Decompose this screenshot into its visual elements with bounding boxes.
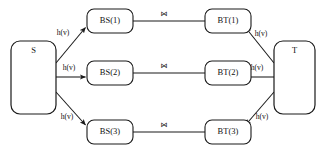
bs-node-2[interactable]: BS(2): [87, 61, 133, 85]
source-node[interactable]: S: [11, 41, 56, 114]
bs-node-3-label: BS(3): [100, 126, 120, 136]
bt-node-1[interactable]: BT(1): [205, 9, 251, 33]
bt-node-3[interactable]: BT(3): [205, 120, 251, 144]
target-node-label: T: [292, 45, 298, 55]
diagram-svg: S T BS(1) BS(2) BS(3) BT(1) BT(2): [0, 0, 321, 154]
bs-node-2-label: BS(2): [100, 67, 120, 77]
join-symbol-icon-1: ⋈: [161, 10, 168, 18]
edge-label-target-1: h(v): [255, 29, 268, 38]
join-symbol-icon-2: ⋈: [161, 62, 168, 70]
edge-group-source: [56, 28, 86, 126]
bs-node-1[interactable]: BS(1): [87, 9, 133, 33]
bt-node-2-label: BT(2): [218, 67, 239, 77]
diagram-canvas: S T BS(1) BS(2) BS(3) BT(1) BT(2): [0, 0, 321, 154]
target-node[interactable]: T: [274, 41, 315, 114]
bt-node-1-label: BT(1): [218, 15, 239, 25]
edge-label-source-2: h(v): [63, 63, 76, 72]
edge-label-target-3: h(v): [256, 112, 269, 121]
join-symbol-icon-3: ⋈: [161, 121, 168, 129]
edge-label-target-2: h(v): [251, 63, 264, 72]
edge-label-source-3: h(v): [61, 112, 74, 121]
edge-label-source-1: h(v): [57, 28, 70, 37]
source-node-label: S: [31, 45, 36, 55]
bt-node-2[interactable]: BT(2): [205, 61, 251, 85]
bs-node-1-label: BS(1): [100, 15, 120, 25]
bt-node-3-label: BT(3): [218, 126, 239, 136]
bs-node-3[interactable]: BS(3): [87, 120, 133, 144]
link-group-join: [133, 21, 205, 132]
